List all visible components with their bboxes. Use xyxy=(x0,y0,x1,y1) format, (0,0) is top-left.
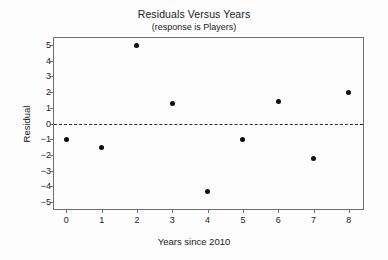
x-axis-tick xyxy=(66,209,67,213)
x-axis-tick xyxy=(208,209,209,213)
x-axis-tick xyxy=(172,209,173,213)
zero-line-reference xyxy=(54,124,363,125)
y-axis-tick-label: 1 xyxy=(46,103,51,113)
page-title: Residuals Versus Years xyxy=(0,8,388,21)
data-point xyxy=(99,145,104,150)
y-axis-tick-label: 3 xyxy=(46,71,51,81)
x-axis-tick-label: 8 xyxy=(346,215,351,225)
x-axis-tick xyxy=(137,209,138,213)
x-axis-tick-label: 0 xyxy=(64,215,69,225)
x-axis-tick-label: 2 xyxy=(134,215,139,225)
chart-subtitle: (response is Players) xyxy=(0,21,388,33)
x-axis-tick xyxy=(278,209,279,213)
x-axis-tick xyxy=(314,209,315,213)
data-point xyxy=(170,101,175,106)
y-axis-tick-label: 2 xyxy=(46,87,51,97)
residual-plot-screenshot: Residuals Versus Years (response is Play… xyxy=(0,0,388,260)
chart-title-block: Residuals Versus Years (response is Play… xyxy=(0,8,388,33)
data-point xyxy=(134,43,139,48)
y-axis-tick-label: −4 xyxy=(41,181,51,191)
y-axis-tick-label: −5 xyxy=(41,197,51,207)
data-point xyxy=(240,137,245,142)
y-axis-tick-label: −3 xyxy=(41,166,51,176)
x-axis-tick xyxy=(102,209,103,213)
x-axis-tick-label: 5 xyxy=(240,215,245,225)
y-axis-tick-label: 0 xyxy=(46,119,51,129)
plot-frame: 543210−1−2−3−4−5012345678 xyxy=(53,37,364,210)
x-axis-tick-label: 6 xyxy=(276,215,281,225)
y-axis-tick-label: 5 xyxy=(46,40,51,50)
x-axis-title: Years since 2010 xyxy=(0,236,388,247)
data-point xyxy=(64,137,69,142)
y-axis-tick-label: 4 xyxy=(46,56,51,66)
x-axis-tick xyxy=(243,209,244,213)
x-axis-tick xyxy=(349,209,350,213)
data-point xyxy=(346,90,351,95)
x-axis-tick-label: 3 xyxy=(170,215,175,225)
data-point xyxy=(311,156,316,161)
x-axis-tick-label: 7 xyxy=(311,215,316,225)
x-axis-tick-label: 1 xyxy=(99,215,104,225)
data-point xyxy=(276,99,281,104)
plot-area xyxy=(54,38,363,209)
data-point xyxy=(205,189,210,194)
y-axis-title: Residual xyxy=(21,106,32,143)
y-axis-tick-label: −2 xyxy=(41,150,51,160)
x-axis-tick-label: 4 xyxy=(205,215,210,225)
y-axis-tick-label: −1 xyxy=(41,134,51,144)
